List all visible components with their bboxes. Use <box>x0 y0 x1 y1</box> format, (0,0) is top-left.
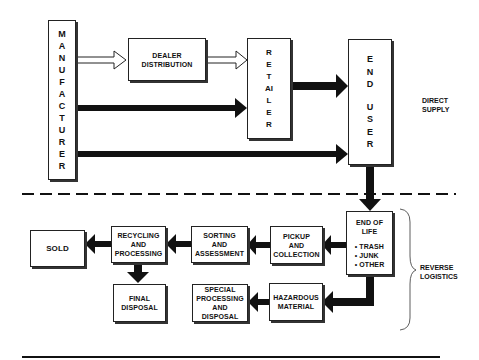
sold-box: SOLD <box>30 230 85 267</box>
final-disposal-box: FINAL DISPOSAL <box>113 284 166 322</box>
special-processing-label: SPECIAL PROCESSING AND DISPOSAL <box>193 285 247 321</box>
manufacturer-box: MANUFACTURER <box>48 20 76 180</box>
end-user-label-line1: END <box>366 53 375 91</box>
end-user-box: END USER <box>348 39 392 165</box>
arrow-enduser-endoflife <box>359 165 381 211</box>
retailer-box: RETAILER <box>247 38 291 139</box>
dealer-distribution-box: DEALER DISTRIBUTION <box>128 38 206 81</box>
reverse-logistics-brace <box>400 209 416 330</box>
pickup-collection-box: PICKUP AND COLLECTION <box>270 226 323 264</box>
end-of-life-title: END OF LIFE <box>356 218 383 236</box>
direct-supply-label: DIRECT SUPPLY <box>422 96 449 114</box>
arrow-sorting-recycling <box>166 234 191 254</box>
special-processing-box: SPECIAL PROCESSING AND DISPOSAL <box>192 284 248 322</box>
sorting-assessment-label: SORTING AND ASSESSMENT <box>195 231 244 258</box>
hollow-arrow-dealer-retailer <box>206 51 247 69</box>
end-of-life-box: END OF LIFE • TRASH • JUNK • OTHER <box>346 211 393 275</box>
arrow-manufacturer-enduser <box>77 144 348 164</box>
recycling-processing-label: RECYCLING AND PROCESSING <box>115 231 163 258</box>
arrow-hazardous-special <box>248 292 269 312</box>
hazardous-material-box: HAZARDOUS MATERIAL <box>269 283 323 321</box>
arrow-endoflife-hazardous <box>322 275 374 313</box>
list-item-junk: • JUNK <box>355 251 385 260</box>
arrow-pickup-sorting <box>247 235 270 255</box>
arrow-recycling-finaldisposal <box>127 263 149 283</box>
retailer-label: RETAILER <box>265 47 274 131</box>
end-user-label-line2: USER <box>366 101 375 151</box>
pickup-collection-label: PICKUP AND COLLECTION <box>273 232 320 259</box>
end-of-life-list: • TRASH • JUNK • OTHER <box>355 242 385 269</box>
hazardous-material-label: HAZARDOUS MATERIAL <box>273 293 319 311</box>
arrow-recycling-sold <box>85 234 111 254</box>
manufacturer-label: MANUFACTURER <box>58 28 67 172</box>
list-item-other: • OTHER <box>355 260 385 269</box>
list-item-trash: • TRASH <box>355 242 385 251</box>
arrow-retailer-enduser <box>291 74 348 98</box>
sold-label: SOLD <box>46 244 69 253</box>
recycling-processing-box: RECYCLING AND PROCESSING <box>111 226 166 263</box>
reverse-logistics-label: REVERSE LOGISTICS <box>420 263 458 281</box>
final-disposal-label: FINAL DISPOSAL <box>121 294 158 312</box>
sorting-assessment-box: SORTING AND ASSESSMENT <box>191 226 248 263</box>
arrow-manufacturer-retailer <box>76 98 247 118</box>
dealer-distribution-label: DEALER DISTRIBUTION <box>142 51 193 69</box>
arrow-endoflife-pickup <box>322 235 346 255</box>
